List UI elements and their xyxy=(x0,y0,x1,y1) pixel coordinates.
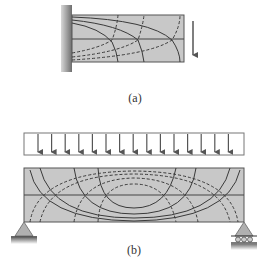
panel-a xyxy=(61,5,193,72)
panel-b-caption: (b) xyxy=(127,243,141,258)
fixed-wall xyxy=(61,5,72,72)
panel-b xyxy=(11,133,257,250)
stress-trajectory-diagram xyxy=(0,0,271,265)
pin-support xyxy=(11,222,37,244)
distributed-load-box xyxy=(24,133,244,155)
panel-a-caption: (a) xyxy=(128,91,141,106)
roller-support xyxy=(231,222,257,250)
